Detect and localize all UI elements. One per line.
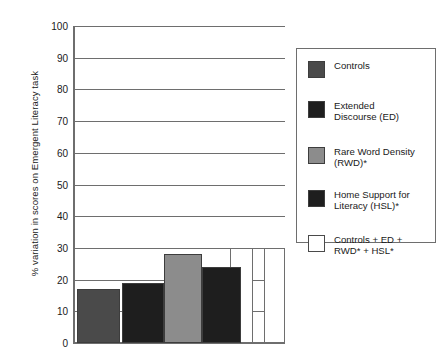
gridline-70 (73, 121, 285, 122)
y-tick-label-0: 0 (62, 338, 68, 349)
bar-2 (122, 283, 164, 343)
legend-item-1[interactable]: Controls (308, 60, 370, 78)
gridline-80 (73, 89, 285, 90)
legend-item-3[interactable]: Rare Word Density (RWD)* (308, 146, 415, 169)
gridline-90 (73, 58, 285, 59)
gridline-60 (73, 153, 285, 154)
bar-chart: % variation in scores on Emergent Litera… (0, 0, 446, 362)
y-tick-label-40: 40 (57, 211, 68, 222)
gridline-100 (73, 26, 285, 27)
gridline-40 (73, 216, 285, 217)
legend: ControlsExtended Discourse (ED)Rare Word… (296, 48, 436, 243)
legend-swatch-icon-2 (308, 101, 325, 118)
y-tick-label-30: 30 (57, 242, 68, 253)
bar-3 (164, 254, 202, 343)
legend-label-2: Extended Discourse (ED) (334, 100, 399, 123)
bar-4 (202, 267, 241, 343)
gridline-30 (73, 248, 285, 249)
y-tick-label-50: 50 (57, 179, 68, 190)
legend-item-2[interactable]: Extended Discourse (ED) (308, 100, 399, 123)
legend-label-1: Controls (334, 60, 370, 71)
legend-label-3: Rare Word Density (RWD)* (334, 146, 415, 169)
gridline-50 (73, 185, 285, 186)
y-tick-label-10: 10 (57, 306, 68, 317)
legend-swatch-icon-4 (308, 190, 325, 207)
legend-item-4[interactable]: Home Support for Literacy (HSL)* (308, 189, 410, 212)
bar-1 (77, 289, 120, 343)
legend-swatch-icon-3 (308, 147, 325, 164)
legend-swatch-icon-1 (308, 61, 325, 78)
y-tick-label-20: 20 (57, 274, 68, 285)
legend-swatch-icon-5 (308, 235, 325, 252)
legend-label-4: Home Support for Literacy (HSL)* (334, 189, 410, 212)
y-tick-label-80: 80 (57, 84, 68, 95)
y-axis-title: % variation in scores on Emergent Litera… (29, 24, 40, 324)
y-tick-label-90: 90 (57, 52, 68, 63)
y-tick-label-60: 60 (57, 147, 68, 158)
plot-area: 1009080706050403020100 (73, 26, 285, 343)
y-tick-label-100: 100 (51, 21, 68, 32)
bar-6 (264, 248, 285, 343)
legend-label-5: Controls + ED + RWD* + HSL* (334, 234, 402, 257)
legend-item-5[interactable]: Controls + ED + RWD* + HSL* (308, 234, 402, 257)
y-tick-label-70: 70 (57, 116, 68, 127)
